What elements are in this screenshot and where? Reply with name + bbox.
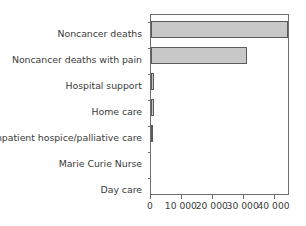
x-tick-label: 10 000 [165,200,197,212]
category-label: Noncancer deaths [58,28,142,40]
x-tick [181,195,182,199]
category-label: Day care [101,184,142,196]
category-label: Inpatient hospice/palliative care [0,132,142,144]
category-label: Noncancer deaths with pain [12,54,142,66]
x-tick [274,195,275,199]
category-label: Home care [91,106,142,118]
x-tick-label: 20 000 [196,200,228,212]
bar-noncancer-deaths [151,21,288,38]
x-tick-label: 40 000 [257,200,289,212]
category-label: Hospital support [66,80,142,92]
x-tick [212,195,213,199]
bar-home-care [151,99,154,116]
bars-layer [151,15,288,194]
x-axis-labels: 010 00020 00030 00040 000 [0,200,306,214]
category-label: Marie Curie Nurse [59,158,142,170]
category-axis: Noncancer deaths Noncancer deaths with p… [0,14,146,195]
bar-chart: Noncancer deaths Noncancer deaths with p… [0,0,306,226]
x-tick-label: 0 [147,200,153,212]
bar-hospital-support [151,73,154,90]
x-tick-label: 30 000 [227,200,259,212]
x-tick [243,195,244,199]
bar-noncancer-deaths-with-pain [151,47,247,64]
x-tick [150,195,151,199]
plot-area [150,14,289,195]
bar-inpatient-hospice-palliative-care [151,125,153,142]
